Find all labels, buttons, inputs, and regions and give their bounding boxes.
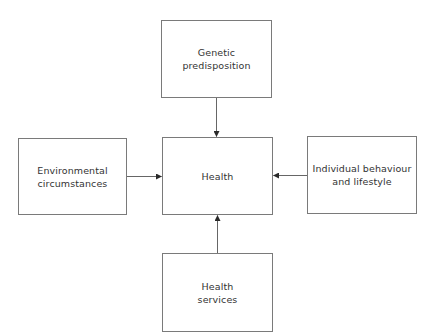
node-label: Genetic predisposition xyxy=(182,46,250,72)
node-genetic-predisposition: Genetic predisposition xyxy=(161,20,272,98)
node-health: Health xyxy=(162,137,273,215)
node-label: Health services xyxy=(198,280,238,306)
node-health-services: Health services xyxy=(162,253,273,332)
node-label: Individual behaviour and lifestyle xyxy=(312,162,411,188)
node-individual-behaviour: Individual behaviour and lifestyle xyxy=(307,136,417,214)
node-label: Environmental circumstances xyxy=(37,164,107,190)
node-environmental-circumstances: Environmental circumstances xyxy=(18,138,127,215)
center-node-label: Health xyxy=(202,170,234,183)
